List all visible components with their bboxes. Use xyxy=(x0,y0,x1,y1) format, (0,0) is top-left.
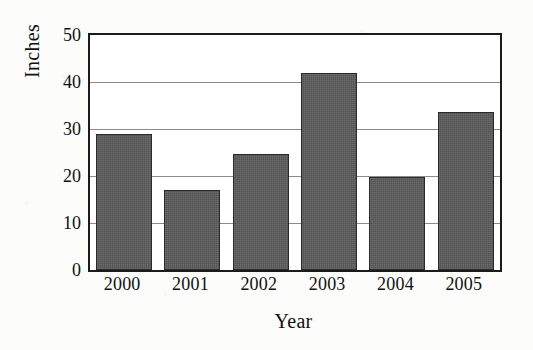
bar-slot xyxy=(158,35,226,270)
y-axis-tick-label: 10 xyxy=(63,213,81,234)
bar-slot xyxy=(227,35,295,270)
bar-2001 xyxy=(164,190,220,270)
bar-2002 xyxy=(233,154,289,270)
bar-chart-figure: Inches 01020304050 200020012002200320042… xyxy=(0,0,533,350)
bar-2004 xyxy=(369,177,425,270)
bar-2005 xyxy=(438,112,494,270)
bar-slot xyxy=(432,35,500,270)
x-axis-tick-label: 2002 xyxy=(225,274,293,295)
y-axis-tick-label: 20 xyxy=(63,166,81,187)
x-axis-tick-label: 2003 xyxy=(293,274,361,295)
bar-slot xyxy=(90,35,158,270)
y-axis-tick-label: 50 xyxy=(63,25,81,46)
y-axis-tick-label: 0 xyxy=(72,260,81,281)
bars-group xyxy=(90,35,500,270)
x-axis-tick-label: 2000 xyxy=(88,274,156,295)
bar-2003 xyxy=(301,73,357,270)
bar-2000 xyxy=(96,134,152,270)
bar-slot xyxy=(295,35,363,270)
y-axis-title: Inches xyxy=(14,0,50,126)
x-axis-tick-label: 2005 xyxy=(430,274,498,295)
y-axis-tick-label: 40 xyxy=(63,72,81,93)
x-axis-tick-labels: 200020012002200320042005 xyxy=(88,274,498,295)
y-axis-tick-label: 30 xyxy=(63,119,81,140)
x-axis-tick-label: 2004 xyxy=(361,274,429,295)
x-axis-title: Year xyxy=(88,310,499,333)
x-axis-tick-label: 2001 xyxy=(156,274,224,295)
plot-area: 01020304050 xyxy=(88,33,502,272)
bar-slot xyxy=(363,35,431,270)
